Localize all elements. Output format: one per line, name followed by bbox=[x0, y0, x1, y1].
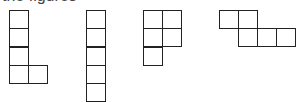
grid-cell bbox=[86, 83, 106, 102]
grid-cell bbox=[9, 47, 29, 66]
grid-cell bbox=[219, 10, 239, 29]
grid-cell bbox=[238, 10, 258, 29]
grid-cell bbox=[9, 28, 29, 47]
grid-cell bbox=[28, 65, 48, 84]
grid-cell bbox=[143, 47, 163, 66]
grid-cell bbox=[143, 28, 163, 47]
grid-cell bbox=[257, 28, 277, 47]
grid-cell bbox=[86, 10, 106, 29]
grid-cell bbox=[276, 28, 296, 47]
grid-cell bbox=[9, 10, 29, 29]
grid-cell bbox=[86, 28, 106, 47]
grid-cell bbox=[86, 47, 106, 66]
grid-cell bbox=[162, 10, 182, 29]
grid-cell bbox=[86, 65, 106, 84]
grid-cell bbox=[9, 65, 29, 84]
grid-cell bbox=[162, 28, 182, 47]
grid-cell bbox=[238, 28, 258, 47]
cropped-heading: the figures bbox=[2, 0, 77, 5]
grid-cell bbox=[143, 10, 163, 29]
